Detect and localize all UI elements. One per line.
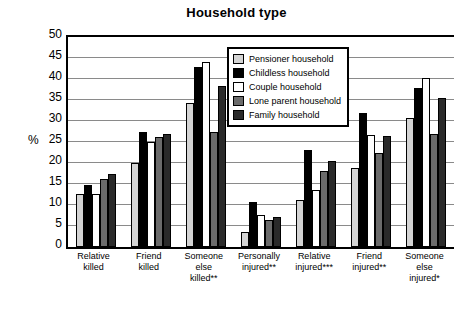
legend-item: Family household <box>233 108 341 122</box>
bar <box>163 134 171 247</box>
bar <box>186 103 194 247</box>
x-tick-label-line: Relative <box>66 251 121 262</box>
bar <box>304 150 312 247</box>
bar-group <box>178 37 233 247</box>
x-tick-label-line: injured** <box>342 262 397 273</box>
bar <box>414 88 422 247</box>
bar-group <box>399 37 454 247</box>
y-tick-label: 40 <box>36 69 62 83</box>
bar <box>351 168 359 247</box>
bar <box>383 136 391 247</box>
x-tick-label-line: killed** <box>176 273 231 284</box>
bar <box>406 118 414 247</box>
x-tick-label-line: Someone <box>397 251 452 262</box>
bar <box>430 134 438 247</box>
legend-label: Pensioner household <box>249 54 334 64</box>
x-tick-label-line: killed <box>66 262 121 273</box>
legend-swatch <box>233 54 244 64</box>
x-tick-label-line: injured** <box>231 262 286 273</box>
bar <box>155 137 163 247</box>
y-tick-label: 20 <box>36 153 62 167</box>
x-tick-label-line: Someone <box>176 251 231 262</box>
bar <box>265 220 273 247</box>
chart-legend: Pensioner householdChildless householdCo… <box>227 47 349 127</box>
legend-label: Family household <box>249 110 320 120</box>
x-tick-label: Someoneelsekilled** <box>176 251 231 284</box>
legend-swatch <box>233 110 244 120</box>
legend-label: Childless household <box>249 68 330 78</box>
bar <box>359 113 367 247</box>
bar <box>131 163 139 247</box>
bar <box>218 86 226 247</box>
x-tick-label-line: killed <box>121 262 176 273</box>
legend-item: Lone parent household <box>233 94 341 108</box>
x-tick-label: Relativekilled <box>66 251 121 284</box>
bar <box>273 217 281 247</box>
x-tick-label: Friendkilled <box>121 251 176 284</box>
x-tick-label: Someoneelseinjured* <box>397 251 452 284</box>
x-tick-label-line: Relative <box>287 251 342 262</box>
legend-swatch <box>233 82 244 92</box>
bar <box>312 190 320 247</box>
bar <box>296 200 304 247</box>
chart-figure: Household type % 05101520253035404550 Re… <box>0 0 473 311</box>
y-tick-label: 30 <box>36 111 62 125</box>
bar <box>76 194 84 247</box>
bar-group <box>123 37 178 247</box>
bar-group <box>68 37 123 247</box>
chart-title: Household type <box>0 5 473 20</box>
bar-group <box>344 37 399 247</box>
y-tick-label: 25 <box>36 132 62 146</box>
bar <box>210 132 218 247</box>
x-axis-tick-labels: RelativekilledFriendkilledSomeoneelsekil… <box>66 251 452 284</box>
bar <box>422 78 430 247</box>
bar <box>249 202 257 247</box>
legend-label: Lone parent household <box>249 96 341 106</box>
x-tick-label: Friendinjured** <box>342 251 397 284</box>
bar <box>147 142 155 247</box>
bar <box>139 132 147 247</box>
x-tick-label-line: injured*** <box>287 262 342 273</box>
bar <box>202 62 210 247</box>
y-tick-label: 45 <box>36 48 62 62</box>
bar <box>438 98 446 247</box>
x-tick-label-line: Friend <box>121 251 176 262</box>
bar <box>241 232 249 247</box>
legend-item: Pensioner household <box>233 52 341 66</box>
bar <box>92 194 100 247</box>
y-tick-label: 50 <box>36 27 62 41</box>
legend-item: Couple household <box>233 80 341 94</box>
x-tick-label: Personallyinjured** <box>231 251 286 284</box>
bar <box>194 67 202 247</box>
x-tick-label-line: else <box>397 262 452 273</box>
x-tick-label-line: injured* <box>397 273 452 284</box>
legend-swatch <box>233 96 244 106</box>
bar <box>108 174 116 247</box>
y-tick-label: 10 <box>36 195 62 209</box>
legend-label: Couple household <box>249 82 322 92</box>
y-axis-tick-labels: 05101520253035404550 <box>30 35 62 245</box>
y-tick-label: 15 <box>36 174 62 188</box>
x-tick-label-line: Personally <box>231 251 286 262</box>
y-tick-label: 5 <box>36 216 62 230</box>
bar <box>320 171 328 247</box>
bar <box>328 161 336 247</box>
bar <box>375 153 383 247</box>
bar <box>84 185 92 247</box>
y-tick-label: 35 <box>36 90 62 104</box>
x-tick-label-line: else <box>176 262 231 273</box>
bar <box>367 135 375 247</box>
x-tick-label-line: Friend <box>342 251 397 262</box>
bar <box>100 179 108 247</box>
x-tick-label: Relativeinjured*** <box>287 251 342 284</box>
y-tick-label: 0 <box>36 237 62 251</box>
legend-swatch <box>233 68 244 78</box>
legend-item: Childless household <box>233 66 341 80</box>
bar <box>257 215 265 247</box>
